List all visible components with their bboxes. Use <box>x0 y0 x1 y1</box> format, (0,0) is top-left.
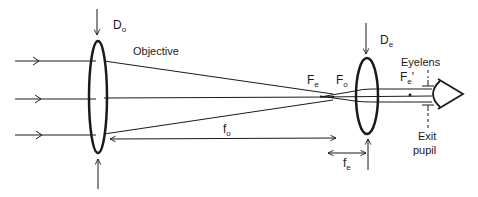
focal-point-dot <box>332 96 335 99</box>
objective-label: Objective <box>133 46 179 57</box>
objective-diameter-label: Do <box>113 19 126 34</box>
converging-rays <box>104 61 333 134</box>
eyepiece-focal-length-label: fe <box>343 157 351 172</box>
eyepiece-focal-point-dot <box>409 94 412 97</box>
objective-focal-length-arrow <box>110 138 336 139</box>
exit-pupil-label-line1: Exit <box>418 131 436 142</box>
objective-lens <box>89 41 107 153</box>
focal-point-eyepiece-label: Fe <box>307 74 319 89</box>
objective-focal-length-label: fo <box>223 123 231 138</box>
eyepiece-diameter-label: De <box>380 34 393 49</box>
incoming-rays <box>15 61 96 135</box>
telescope-diagram <box>0 0 478 197</box>
eye-icon <box>433 79 463 109</box>
focal-point-eyepiece-prime-label: Fe' <box>400 71 414 86</box>
exit-pupil-label-line2: pupil <box>413 145 436 156</box>
ray-direction-arrows <box>33 57 42 139</box>
focal-point-objective-label: Fo <box>336 74 348 89</box>
eyepiece-rays <box>320 89 432 102</box>
eyepiece-lens <box>356 58 378 134</box>
eyelens-label: Eyelens <box>401 57 440 68</box>
